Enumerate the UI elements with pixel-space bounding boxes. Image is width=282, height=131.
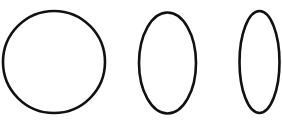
ellipse-diagram [0, 0, 282, 131]
